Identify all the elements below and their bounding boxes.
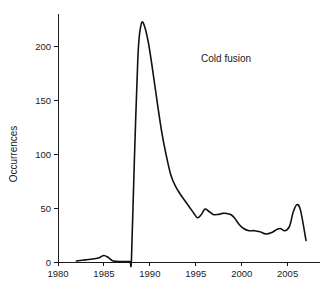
annotation-cold-fusion: Cold fusion [201, 53, 251, 64]
x-tick-label: 1985 [93, 268, 114, 279]
x-tick-label: 1980 [47, 268, 68, 279]
line-chart: 050100150200 198019851990199520002005 Oc… [0, 0, 331, 307]
series-line-cold-fusion [76, 22, 306, 267]
y-tick-label: 100 [35, 149, 51, 160]
x-tick-label: 1995 [185, 268, 206, 279]
y-axis-title: Occurrences [8, 126, 19, 183]
y-axis-ticks: 050100150200 [35, 41, 58, 268]
x-tick-label: 2000 [231, 268, 252, 279]
x-axis-ticks: 198019851990199520002005 [47, 262, 298, 279]
x-tick-label: 2005 [277, 268, 298, 279]
y-tick-label: 200 [35, 41, 51, 52]
y-tick-label: 50 [40, 203, 51, 214]
x-tick-label: 1990 [139, 268, 160, 279]
chart-container: 050100150200 198019851990199520002005 Oc… [0, 0, 331, 307]
y-tick-label: 0 [46, 257, 51, 268]
y-tick-label: 150 [35, 95, 51, 106]
